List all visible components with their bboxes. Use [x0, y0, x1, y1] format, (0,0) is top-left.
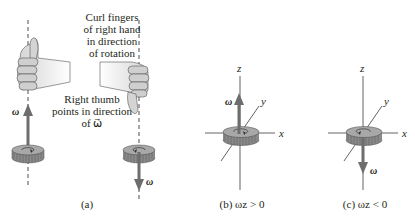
caption-b: (b) ωz > 0 [212, 198, 272, 210]
axis-label-z-b: z [237, 62, 241, 74]
panel-c [328, 76, 398, 190]
axis-label-z-c: z [360, 62, 364, 74]
axis-label-y-c: y [384, 95, 389, 107]
omega-label-right: ω⃗ [146, 176, 161, 187]
caption-a: (a) [72, 198, 102, 210]
axis-label-y-b: y [261, 95, 266, 107]
axis-label-x-b: x [279, 127, 284, 139]
curl-fingers-caption: Curl fingers of right hand in direction … [52, 11, 172, 59]
right-thumb-caption: Right thumb points in direction of ω⃗ [42, 93, 142, 129]
curl-text-line: Curl fingers [52, 11, 172, 23]
omega-label-c: ω⃗ [370, 165, 385, 176]
gear-icon-b [223, 127, 259, 146]
caption-c: (c) ωz < 0 [335, 198, 395, 210]
gear-icon-left [12, 145, 44, 163]
axis-label-x-c: x [402, 127, 407, 139]
thumb-text-line: of ω⃗ [42, 117, 142, 129]
thumb-text-line: Right thumb [42, 93, 142, 105]
curl-text-line: of right hand [52, 23, 172, 35]
panel-b [205, 76, 275, 190]
thumb-text-line: points in direction [42, 105, 142, 117]
omega-label-left: ω⃗ [12, 106, 27, 117]
curl-text-line: of rotation [52, 47, 172, 59]
curl-text-line: in direction [52, 35, 172, 47]
omega-label-b: ω⃗ [225, 96, 240, 107]
